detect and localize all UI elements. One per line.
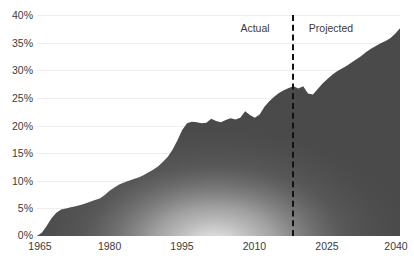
- annotation-projected: Projected: [309, 22, 353, 34]
- y-tick-25: 25%: [0, 93, 33, 103]
- y-tick-20: 20%: [0, 121, 33, 131]
- x-tick-2040: 2040: [384, 240, 407, 252]
- y-tick-10: 10%: [0, 176, 33, 186]
- x-tick-1995: 1995: [170, 240, 193, 252]
- y-tick-15: 15%: [0, 148, 33, 158]
- area-series-shape: [37, 15, 400, 236]
- area-series-plot: [37, 15, 400, 236]
- y-axis-labels: 40% 35% 30% 25% 20% 15% 10% 5% 0%: [0, 0, 33, 260]
- y-tick-0: 0%: [0, 230, 33, 240]
- y-tick-35: 35%: [0, 38, 33, 48]
- area-chart: Actual Projected 40% 35% 30% 25% 20% 15%…: [0, 0, 414, 260]
- y-tick-30: 30%: [0, 65, 33, 75]
- y-tick-40: 40%: [0, 10, 33, 20]
- x-tick-1980: 1980: [98, 240, 121, 252]
- clipped-title: [0, 0, 414, 3]
- y-tick-5: 5%: [0, 203, 33, 213]
- x-tick-1965: 1965: [28, 240, 51, 252]
- annotation-actual: Actual: [240, 22, 269, 34]
- x-tick-2010: 2010: [243, 240, 266, 252]
- forecast-divider-line: [292, 15, 294, 236]
- x-axis-labels: 1965 1980 1995 2010 2025 2040: [0, 240, 414, 256]
- x-tick-2025: 2025: [315, 240, 338, 252]
